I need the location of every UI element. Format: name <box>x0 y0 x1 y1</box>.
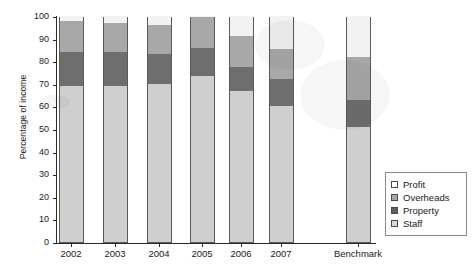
bar-segment-property[interactable] <box>230 67 253 91</box>
bar-segment-profit[interactable] <box>148 16 171 25</box>
bar-segment-staff[interactable] <box>104 86 127 242</box>
legend-label-staff: Staff <box>403 217 422 230</box>
bar-segment-profit[interactable] <box>230 16 253 36</box>
y-tick-mark <box>53 243 57 244</box>
legend-label-property: Property <box>403 204 439 217</box>
y-tick-label: 50 <box>15 124 49 134</box>
bar-segment-overheads[interactable] <box>191 17 214 48</box>
y-tick-label: 60 <box>15 101 49 111</box>
bar-segment-property[interactable] <box>191 48 214 76</box>
bar-segment-staff[interactable] <box>230 91 253 242</box>
bar-segment-property[interactable] <box>347 100 370 127</box>
bars-layer <box>57 17 375 243</box>
x-tick-mark <box>202 243 203 247</box>
bar-segment-staff[interactable] <box>148 84 171 242</box>
bar-segment-property[interactable] <box>60 52 83 86</box>
bar-segment-property[interactable] <box>148 54 171 83</box>
x-tick-mark <box>71 243 72 247</box>
legend-item-profit[interactable]: Profit <box>391 178 462 191</box>
legend-swatch-property-icon <box>391 207 398 214</box>
bar-benchmark[interactable] <box>346 17 371 243</box>
x-axis-label-2007: 2007 <box>251 248 311 259</box>
y-tick-label: 20 <box>15 192 49 202</box>
legend: Profit Overheads Property Staff <box>385 172 467 236</box>
bar-segment-overheads[interactable] <box>347 57 370 100</box>
bar-2005[interactable] <box>190 17 215 243</box>
bar-segment-overheads[interactable] <box>270 49 293 80</box>
y-tick-label: 0 <box>15 237 49 247</box>
bar-segment-overheads[interactable] <box>60 21 83 53</box>
bar-segment-overheads[interactable] <box>104 23 127 52</box>
bar-segment-staff[interactable] <box>270 106 293 242</box>
legend-item-property[interactable]: Property <box>391 204 462 217</box>
bar-2007[interactable] <box>269 17 294 243</box>
y-tick-label: 100 <box>15 11 49 21</box>
x-axis-label-benchmark: Benchmark <box>328 248 388 259</box>
x-tick-mark <box>281 243 282 247</box>
y-tick-label: 30 <box>15 169 49 179</box>
bar-segment-property[interactable] <box>104 52 127 86</box>
bar-segment-profit[interactable] <box>104 16 127 23</box>
legend-label-overheads: Overheads <box>403 191 449 204</box>
x-tick-mark <box>115 243 116 247</box>
legend-swatch-overheads-icon <box>391 194 398 201</box>
bar-segment-overheads[interactable] <box>230 36 253 67</box>
x-tick-mark <box>159 243 160 247</box>
legend-label-profit: Profit <box>403 178 425 191</box>
x-axis-line <box>56 243 376 244</box>
y-tick-label: 70 <box>15 79 49 89</box>
x-tick-mark <box>358 243 359 247</box>
y-tick-label: 40 <box>15 147 49 157</box>
bar-2002[interactable] <box>59 17 84 243</box>
legend-item-staff[interactable]: Staff <box>391 217 462 230</box>
legend-swatch-profit-icon <box>391 181 398 188</box>
y-tick-label: 10 <box>15 214 49 224</box>
bar-segment-profit[interactable] <box>347 16 370 57</box>
y-tick-label: 80 <box>15 56 49 66</box>
legend-item-overheads[interactable]: Overheads <box>391 191 462 204</box>
x-tick-mark <box>241 243 242 247</box>
legend-swatch-staff-icon <box>391 220 398 227</box>
bar-segment-profit[interactable] <box>270 16 293 49</box>
bar-2003[interactable] <box>103 17 128 243</box>
bar-segment-overheads[interactable] <box>148 25 171 54</box>
stacked-bar-chart: Percentage of income 0102030405060708090… <box>0 0 475 270</box>
bar-segment-profit[interactable] <box>191 16 214 17</box>
bar-2006[interactable] <box>229 17 254 243</box>
y-tick-label: 90 <box>15 34 49 44</box>
bar-segment-profit[interactable] <box>60 16 83 21</box>
bar-2004[interactable] <box>147 17 172 243</box>
bar-segment-staff[interactable] <box>347 127 370 242</box>
bar-segment-staff[interactable] <box>191 76 214 242</box>
bar-segment-staff[interactable] <box>60 86 83 242</box>
bar-segment-property[interactable] <box>270 79 293 106</box>
